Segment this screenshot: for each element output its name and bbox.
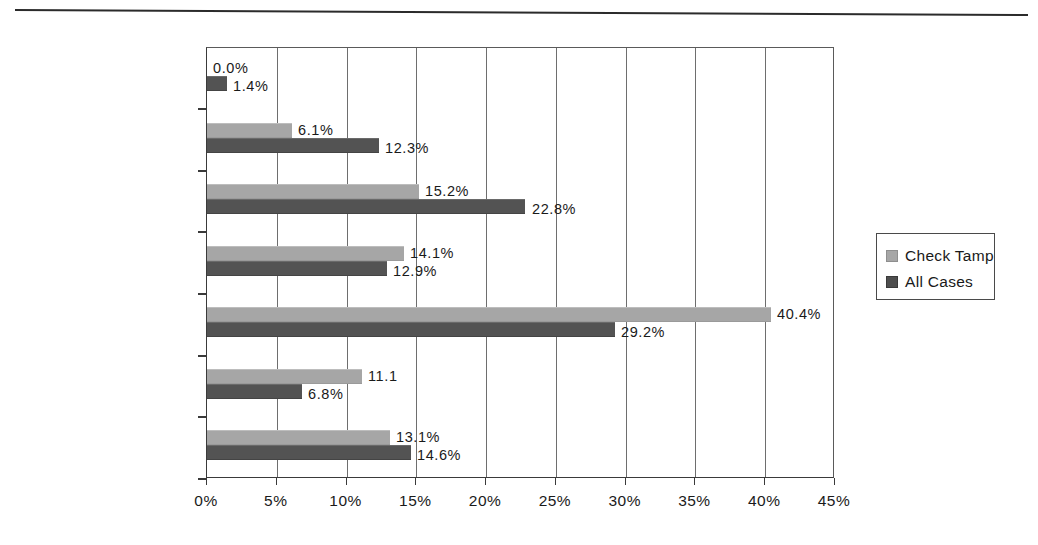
- x-axis-label-35: 35%: [678, 492, 711, 510]
- x-axis-tick: [834, 478, 835, 485]
- y-axis-tick: [198, 108, 206, 110]
- chart-legend: Check Tamp All Cases: [876, 233, 995, 300]
- bar-value-check-tamp-4: 40.4%: [777, 307, 821, 322]
- bar-check-tamp-1: [207, 123, 292, 138]
- bar-all-cases-5: [207, 384, 302, 399]
- bar-all-cases-0: [207, 76, 227, 91]
- x-axis-label-0: 0%: [194, 492, 217, 510]
- x-axis-tick: [346, 478, 347, 485]
- bar-value-check-tamp-2: 15.2%: [425, 184, 469, 199]
- bar-all-cases-4: [207, 322, 615, 337]
- y-axis-tick: [198, 416, 206, 418]
- x-axis-label-15: 15%: [399, 492, 432, 510]
- plot-area: 0.0% 1.4% 6.1% 12.3% 15.2% 22.8% 14.1% 1…: [206, 47, 834, 478]
- bar-value-check-tamp-3: 14.1%: [410, 246, 454, 261]
- x-axis-tick: [555, 478, 556, 485]
- x-axis-label-40: 40%: [748, 492, 781, 510]
- y-axis-tick: [198, 293, 206, 295]
- bar-value-all-cases-5: 6.8%: [308, 387, 343, 402]
- x-axis-tick: [625, 478, 626, 485]
- y-axis-tick: [198, 231, 206, 233]
- bar-value-all-cases-0: 1.4%: [233, 79, 268, 94]
- bar-group-3: 14.1% 12.9%: [207, 233, 833, 295]
- x-axis-label-30: 30%: [608, 492, 641, 510]
- bar-group-5: 11.1 6.8%: [207, 356, 833, 418]
- x-axis-tick: [694, 478, 695, 485]
- bar-group-6: 13.1% 14.6%: [207, 417, 833, 479]
- bar-value-all-cases-4: 29.2%: [621, 325, 665, 340]
- y-axis-tick: [198, 355, 206, 357]
- bar-value-check-tamp-6: 13.1%: [396, 430, 440, 445]
- x-axis-tick: [415, 478, 416, 485]
- bar-group-0: 0.0% 1.4%: [207, 48, 833, 110]
- x-axis-label-5: 5%: [264, 492, 287, 510]
- bar-value-all-cases-3: 12.9%: [393, 264, 437, 279]
- x-axis-label-20: 20%: [469, 492, 502, 510]
- bar-value-check-tamp-0: 0.0%: [213, 61, 248, 76]
- bar-check-tamp-5: [207, 369, 362, 384]
- horizontal-bar-chart: 1-999 1,000 - 9,999 10,000- 49,999 50,00…: [0, 0, 1038, 545]
- x-axis-tick: [276, 478, 277, 485]
- bar-value-all-cases-2: 22.8%: [532, 202, 576, 217]
- x-axis-label-45: 45%: [818, 492, 851, 510]
- bar-group-4: 40.4% 29.2%: [207, 294, 833, 356]
- x-axis-label-10: 10%: [329, 492, 362, 510]
- legend-label-all-cases: All Cases: [905, 274, 973, 290]
- bar-all-cases-3: [207, 261, 387, 276]
- bar-all-cases-2: [207, 199, 525, 214]
- bar-value-check-tamp-1: 6.1%: [298, 123, 333, 138]
- legend-item-check-tamp[interactable]: Check Tamp: [886, 248, 994, 264]
- legend-label-check-tamp: Check Tamp: [905, 248, 994, 264]
- bar-value-all-cases-6: 14.6%: [417, 448, 461, 463]
- x-axis-tick: [206, 478, 207, 485]
- x-axis-label-25: 25%: [539, 492, 572, 510]
- y-axis-tick: [198, 478, 206, 480]
- bar-check-tamp-6: [207, 430, 390, 445]
- y-axis-tick: [198, 170, 206, 172]
- bar-value-all-cases-1: 12.3%: [385, 141, 429, 156]
- bar-value-check-tamp-5: 11.1: [368, 369, 398, 384]
- legend-swatch-icon-check-tamp: [886, 250, 898, 262]
- bar-check-tamp-3: [207, 246, 404, 261]
- bar-group-2: 15.2% 22.8%: [207, 171, 833, 233]
- bar-group-1: 6.1% 12.3%: [207, 110, 833, 172]
- bar-check-tamp-2: [207, 184, 419, 199]
- x-axis-tick: [764, 478, 765, 485]
- x-axis-tick: [485, 478, 486, 485]
- legend-swatch-icon-all-cases: [886, 276, 898, 288]
- bar-check-tamp-4: [207, 307, 771, 322]
- bar-all-cases-1: [207, 138, 379, 153]
- bar-all-cases-6: [207, 445, 411, 460]
- legend-item-all-cases[interactable]: All Cases: [886, 274, 973, 290]
